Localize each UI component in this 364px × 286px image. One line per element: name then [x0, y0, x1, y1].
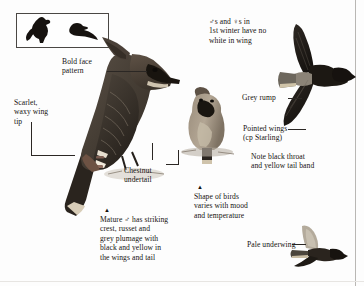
plate-bottom-rule	[0, 281, 364, 282]
label-pale-underwing: Pale underwing	[247, 240, 296, 249]
flying-upperside-artwork	[272, 22, 360, 134]
grey-rump	[294, 72, 312, 86]
figure-perched-bird-front	[174, 86, 240, 166]
label-chestnut-undertail: Chestnut undertail	[124, 166, 152, 185]
label-scarlet-waxy-wing-tip: Scarlet, waxy wing tip	[14, 98, 48, 126]
head	[330, 249, 348, 260]
flying-underside-artwork	[286, 222, 352, 276]
bill	[167, 77, 180, 84]
label-mature-male: Mature ♂ has striking crest, russet and …	[100, 215, 168, 262]
perched-front-artwork	[174, 86, 240, 166]
leader-grey-rump	[288, 98, 302, 99]
tail-band-yellow	[202, 160, 212, 164]
leader-bold-face	[107, 71, 147, 72]
leader-pointed-wings	[288, 129, 306, 130]
leader-chestnut-vertical	[152, 143, 153, 160]
eye-right	[210, 99, 214, 102]
label-first-winter-no-white: ♂s and ♀s in 1st winter have no white in…	[209, 17, 266, 45]
label-pointed-wings: Pointed wings (cp Starling)	[243, 124, 287, 143]
leader-scarlet-vertical	[31, 122, 32, 155]
figure-flying-bird-upperside	[272, 22, 360, 134]
eye-left	[199, 98, 203, 101]
leader-front-bird-horizontal	[166, 164, 179, 165]
label-note-black-throat: Note black throat and yellow tail band	[251, 152, 314, 171]
eye	[152, 68, 157, 72]
marker-shape-varies: ▲	[197, 184, 203, 190]
leader-front-bird	[178, 150, 179, 164]
label-grey-rump: Grey rump	[242, 93, 276, 102]
marker-mature-male: ▲	[104, 207, 110, 213]
label-shape-varies: Shape of birds varies with mood and temp…	[194, 192, 248, 220]
label-bold-face-pattern: Bold face pattern	[62, 57, 92, 76]
head	[332, 68, 356, 82]
perch-branch	[181, 148, 233, 157]
leader-scarlet-horizontal	[31, 155, 75, 156]
field-guide-plate: Bold face pattern Scarlet, waxy wing tip…	[0, 0, 364, 286]
figure-flying-bird-underside	[286, 222, 352, 276]
